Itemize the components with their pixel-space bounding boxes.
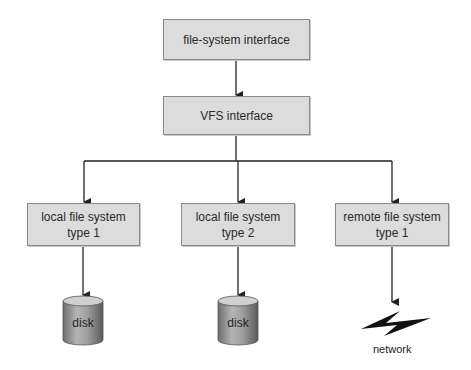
lightning-bolt-icon [361, 311, 431, 336]
box-label: VFS interface [200, 108, 273, 124]
vfs-interface-box: VFS interface [163, 96, 310, 135]
local-file-system-type1-box: local file system type 1 [27, 203, 140, 246]
disk-label: disk [62, 316, 104, 330]
remote-file-system-type1-box: remote file system type 1 [335, 203, 449, 246]
box-label-line2: type 1 [67, 225, 100, 241]
box-label-line2: type 2 [222, 225, 255, 241]
box-label-line1: local file system [196, 209, 281, 225]
network-label: network [373, 343, 412, 355]
box-label-line2: type 1 [376, 225, 409, 241]
box-label: file-system interface [183, 32, 290, 48]
disk-label: disk [217, 316, 259, 330]
box-label-line1: local file system [41, 209, 126, 225]
local-file-system-type2-box: local file system type 2 [181, 203, 295, 246]
file-system-interface-box: file-system interface [163, 19, 310, 60]
box-label-line1: remote file system [343, 209, 440, 225]
